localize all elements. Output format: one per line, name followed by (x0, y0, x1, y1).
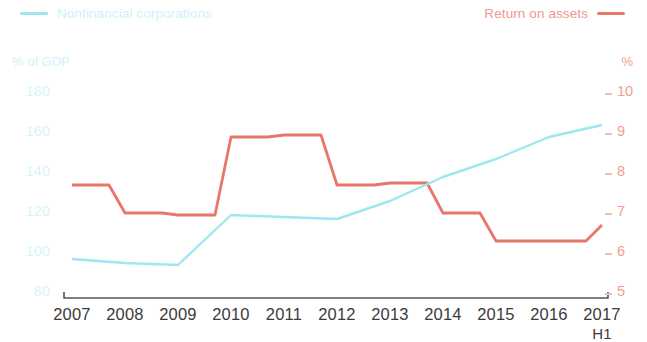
x-axis-label: 2016 (530, 305, 568, 324)
x-axis-sublabel: H1 (583, 325, 621, 342)
x-axis-label: 2007 (53, 305, 91, 324)
series-line-return-on-assets (72, 135, 602, 241)
series-line-nonfinancial-corporations (72, 125, 602, 265)
y-axis-right-tick-mark (605, 93, 612, 95)
plot-area (0, 0, 647, 342)
chart-container: Nonfinancial corporations Return on asse… (0, 0, 647, 342)
x-axis-label: 2008 (106, 305, 144, 324)
x-axis-label: 2014 (424, 305, 462, 324)
x-axis-label: 2010 (212, 305, 250, 324)
x-axis-line (64, 292, 608, 298)
x-axis-label: 2015 (477, 305, 515, 324)
x-axis-label: 2012 (318, 305, 356, 324)
y-axis-right-tick-mark (605, 133, 612, 135)
x-axis-label: 2009 (159, 305, 197, 324)
x-axis-label: 2011 (266, 305, 302, 324)
x-axis-label: 2017H1 (583, 305, 621, 342)
x-axis-labels: 2007200820092010201120122013201420152016… (0, 305, 647, 341)
y-axis-right-tick-mark (605, 213, 612, 215)
y-axis-right-tick-mark (605, 293, 612, 295)
y-axis-right-tick-mark (605, 253, 612, 255)
y-axis-right-tick-mark (605, 173, 612, 175)
x-axis-label: 2013 (371, 305, 409, 324)
